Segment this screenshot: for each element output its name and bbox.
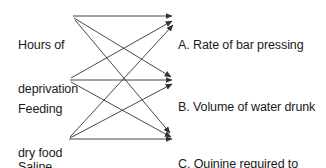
- edge-saline-to-a: [70, 25, 173, 137]
- target-label-line-1: B. Volume of water drunk: [178, 100, 315, 115]
- target-label-line-1: C. Quinine required to: [178, 157, 298, 168]
- edge-feeding-to-c: [71, 82, 171, 137]
- edge-saline-to-b: [70, 84, 172, 138]
- target-label-quinine-required-to-stop-drinking: C. Quinine required to stop drinking: [178, 128, 298, 168]
- source-label-line-1: Saline: [18, 160, 63, 168]
- source-label-saline-injection: Saline injection: [18, 131, 63, 168]
- source-label-line-1: Hours of: [18, 38, 78, 53]
- source-label-line-1: Feeding: [18, 102, 62, 117]
- edge-feeding-to-a: [71, 21, 172, 78]
- target-label-line-1: A. Rate of bar pressing: [178, 38, 304, 53]
- bipartite-diagram: Hours of deprivation Feeding dry food Sa…: [0, 0, 326, 168]
